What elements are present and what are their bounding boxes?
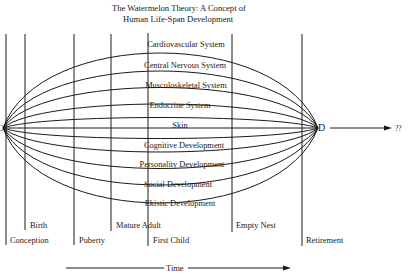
stage-empty-nest: Empty Nest [236, 221, 276, 230]
band-skin: Skin [172, 121, 187, 130]
future-arrow-head [384, 126, 392, 131]
band-musculoskeletal: Musculoskeletal System [145, 81, 227, 90]
band-endocrine: Endocrine System [149, 101, 210, 110]
band-curve-5 [3, 128, 318, 139]
stage-mature-adult: Mature Adult [116, 221, 161, 230]
beyond-label: ?? [395, 124, 402, 133]
band-social: Social Development [144, 180, 212, 189]
stage-puberty: Puberty [79, 236, 105, 245]
endpoint-c-label: C [0, 123, 3, 133]
band-curve-1 [3, 71, 318, 128]
band-cardiovascular: Cardiovascular System [147, 40, 224, 49]
band-personality: Personality Development [140, 160, 225, 169]
stage-conception: Conception [10, 236, 49, 245]
time-axis-label: Time [166, 263, 184, 273]
stage-retirement: Retirement [306, 236, 343, 245]
band-curve-8 [3, 128, 318, 185]
stage-first-child: First Child [153, 236, 189, 245]
band-cognitive: Cognitive Development [144, 141, 224, 150]
endpoint-d-label: D [318, 122, 325, 133]
time-arrow-head [283, 266, 291, 271]
band-central-nervous: Central Nervous System [144, 61, 226, 70]
stage-birth: Birth [30, 221, 47, 230]
band-curve-4 [3, 118, 318, 129]
band-ekistic: Ekistic Development [145, 199, 215, 208]
